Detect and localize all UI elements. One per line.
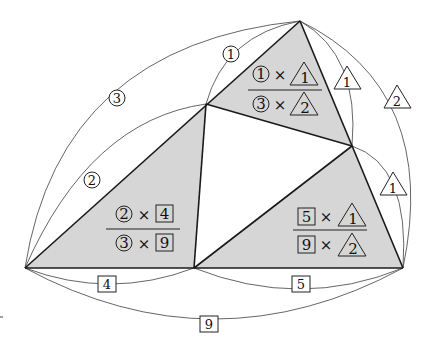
svg-text:4: 4 [103,277,111,292]
svg-text:2: 2 [88,173,96,188]
svg-text:3: 3 [119,234,129,252]
svg-text:×: × [138,235,151,253]
svg-text:1: 1 [256,65,266,83]
svg-text:9: 9 [302,236,312,254]
svg-text:1: 1 [348,210,358,228]
svg-text:2: 2 [300,99,310,117]
triangle-area-ratio-diagram: 1 3 2 1 2 1 4 5 9 1 × 1 [0,0,426,351]
fraction-right: 5 × 1 9 × 2 [293,203,367,258]
svg-text:×: × [274,66,287,84]
svg-text:3: 3 [256,95,266,113]
label-triangle-1-lower: 1 [380,172,407,196]
svg-text:1: 1 [227,47,235,62]
svg-text:×: × [320,208,333,226]
svg-text:×: × [274,96,287,114]
svg-text:2: 2 [393,94,401,109]
label-circle-3-outer: 3 [109,90,125,106]
label-circle-2-left: 2 [84,172,100,188]
label-circle-1-top: 1 [223,46,239,62]
label-triangle-1-upper: 1 [334,66,361,90]
svg-text:1: 1 [343,75,351,90]
label-triangle-2-outer: 2 [384,85,411,109]
svg-text:5: 5 [297,277,305,292]
svg-text:3: 3 [113,91,121,106]
svg-text:2: 2 [348,240,358,258]
svg-text:5: 5 [302,208,312,226]
svg-text:4: 4 [160,205,170,223]
svg-text:2: 2 [119,205,129,223]
svg-text:1: 1 [300,69,310,87]
label-square-9: 9 [200,316,218,332]
svg-text:9: 9 [205,317,213,332]
label-square-5: 5 [292,276,310,292]
svg-text:1: 1 [389,181,397,196]
svg-text:×: × [320,236,333,254]
label-square-4: 4 [98,276,116,292]
svg-text:×: × [138,206,151,224]
svg-text:9: 9 [160,234,170,252]
